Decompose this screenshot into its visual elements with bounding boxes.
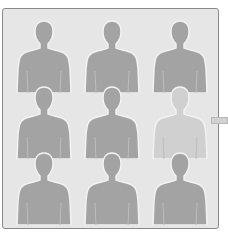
silhouette-2-icon <box>83 19 141 93</box>
silhouette-6-icon <box>151 85 209 159</box>
silhouette-1-icon <box>15 19 73 93</box>
side-handle[interactable] <box>211 117 228 124</box>
silhouette-3-icon <box>151 19 209 93</box>
silhouette-5-icon <box>83 85 141 159</box>
silhouette-4-icon <box>15 85 73 159</box>
silhouette-7-icon <box>15 151 73 225</box>
silhouette-grid-panel <box>2 8 219 229</box>
silhouette-9-icon <box>151 151 209 225</box>
silhouette-8-icon <box>83 151 141 225</box>
